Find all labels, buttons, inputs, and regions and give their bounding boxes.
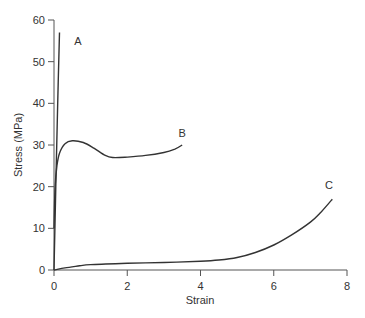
- y-tick-label: 50: [33, 56, 45, 68]
- series-a-line: [54, 33, 60, 271]
- x-tick-label: 8: [344, 280, 350, 292]
- y-tick-label: 10: [33, 222, 45, 234]
- y-tick-label: 40: [33, 97, 45, 109]
- series-c-line: [54, 199, 332, 270]
- x-axis-label: Strain: [186, 294, 215, 306]
- series-group: [54, 33, 332, 271]
- y-tick-label: 60: [33, 14, 45, 26]
- y-tick-label: 20: [33, 181, 45, 193]
- y-tick-label: 30: [33, 139, 45, 151]
- series-b-line: [54, 141, 182, 229]
- x-tick-label: 0: [51, 280, 57, 292]
- x-axis: 02468: [51, 270, 350, 292]
- series-labels: ABC: [74, 35, 333, 191]
- x-tick-label: 6: [271, 280, 277, 292]
- y-axis-label: Stress (MPa): [12, 113, 24, 177]
- series-b-label: B: [179, 127, 186, 139]
- y-tick-label: 0: [39, 264, 45, 276]
- x-tick-label: 4: [197, 280, 203, 292]
- x-tick-label: 2: [124, 280, 130, 292]
- y-axis: 0102030405060: [33, 14, 54, 276]
- stress-strain-chart: 0102030405060 02468 ABC Strain Stress (M…: [0, 0, 365, 318]
- series-a-label: A: [74, 35, 82, 47]
- series-c-label: C: [325, 179, 333, 191]
